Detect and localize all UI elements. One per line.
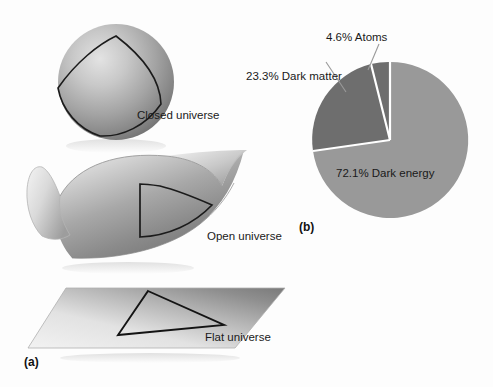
panel-caption-a: (a) xyxy=(24,355,39,369)
panel-caption-b: (b) xyxy=(299,220,314,234)
pie-label-dark-energy: 72.1% Dark energy xyxy=(336,167,435,179)
saddle-shadow xyxy=(62,262,194,274)
closed-universe-label: Closed universe xyxy=(137,109,219,121)
cosmology-figure: Closed universe Open universe Flat unive… xyxy=(0,0,493,387)
flat-universe-label: Flat universe xyxy=(205,331,271,343)
pie-label-atoms: 4.6% Atoms xyxy=(326,31,388,43)
plane-shadow xyxy=(60,353,240,363)
pie-label-dark-matter: 23.3% Dark matter xyxy=(246,70,342,82)
sphere-shadow xyxy=(66,139,166,153)
open-universe-label: Open universe xyxy=(207,230,282,242)
